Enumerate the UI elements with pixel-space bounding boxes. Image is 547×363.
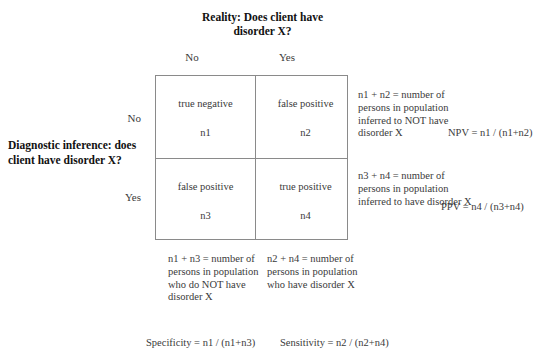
- cell-count: n4: [256, 209, 355, 222]
- sensitivity-column-total-note: n2 + n4 = number of persons in populatio…: [267, 253, 369, 291]
- reality-axis-title: Reality: Does client have disorder X?: [180, 10, 345, 38]
- column-header-no: No: [172, 51, 212, 64]
- cell-label: false positive: [156, 180, 255, 193]
- matrix-cell-false-positive-bottom: false positive n3: [156, 159, 255, 241]
- cell-label: false positive: [256, 97, 355, 110]
- row-header-yes: Yes: [95, 191, 141, 204]
- cell-count: n2: [256, 126, 355, 139]
- npv-formula: NPV = n1 / (n1+n2): [448, 126, 533, 139]
- cell-label: true positive: [256, 180, 355, 193]
- confusion-matrix: true negative n1 false positive n2 false…: [155, 75, 348, 240]
- matrix-cell-false-positive-top: false positive n2: [256, 76, 355, 158]
- row-header-no: No: [95, 112, 141, 125]
- column-header-yes: Yes: [267, 51, 307, 64]
- specificity-column-total-note: n1 + n3 = number of persons in populatio…: [168, 253, 266, 304]
- sensitivity-formula: Sensitivity = n2 / (n2+n4): [280, 336, 389, 349]
- cell-count: n1: [156, 126, 255, 139]
- ppv-formula: PPV = n4 / (n3+n4): [441, 200, 524, 213]
- cell-count: n3: [156, 209, 255, 222]
- matrix-cell-true-positive: true positive n4: [256, 159, 355, 241]
- diagnostic-inference-axis-title: Diagnostic inference: does client have d…: [8, 138, 140, 167]
- cell-label: true negative: [156, 97, 255, 110]
- specificity-formula: Specificity = n1 / (n1+n3): [146, 336, 255, 349]
- matrix-cell-true-negative: true negative n1: [156, 76, 255, 158]
